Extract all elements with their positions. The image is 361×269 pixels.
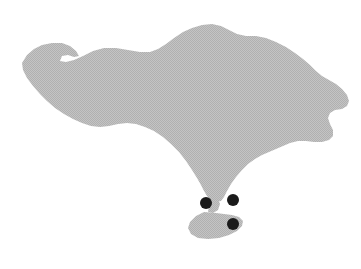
- marker-northeast[interactable]: [227, 194, 239, 206]
- marker-south[interactable]: [227, 218, 239, 230]
- map-canvas: [0, 0, 361, 269]
- marker-west[interactable]: [200, 197, 212, 209]
- map-figure: [0, 0, 361, 269]
